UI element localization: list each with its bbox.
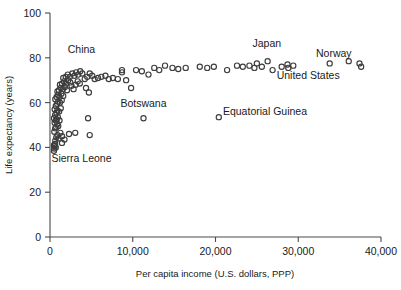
y-tick-label: 40 <box>29 141 41 153</box>
y-tick-label: 80 <box>29 52 41 64</box>
annotation-label: China <box>68 43 96 55</box>
y-axis-ticks: 020406080100 <box>23 7 50 243</box>
data-point <box>146 72 151 77</box>
data-point <box>73 130 78 135</box>
data-point <box>346 59 351 64</box>
data-point <box>157 68 162 73</box>
data-point <box>211 64 216 69</box>
x-tick-label: 40,000 <box>365 245 397 257</box>
y-tick-label: 0 <box>35 231 41 243</box>
y-tick-label: 100 <box>23 7 41 19</box>
data-point <box>259 64 264 69</box>
annotation-label: Japan <box>253 37 282 49</box>
annotation-label: United States <box>277 69 340 81</box>
data-point <box>216 115 221 120</box>
data-point <box>327 61 332 66</box>
x-tick-label: 30,000 <box>282 245 314 257</box>
y-axis-title: Life expectancy (years) <box>3 76 14 174</box>
data-point <box>115 76 120 81</box>
annotation-label: Botswana <box>120 97 166 109</box>
data-point <box>170 65 175 70</box>
data-point <box>66 131 71 136</box>
annotation-label: Equatorial Guinea <box>223 105 307 117</box>
data-point <box>128 85 133 90</box>
data-point <box>162 63 167 68</box>
y-tick-label: 60 <box>29 97 41 109</box>
data-point <box>254 61 259 66</box>
data-point <box>265 59 270 64</box>
chart-canvas: 010,00020,00030,00040,000 020406080100 P… <box>0 0 401 290</box>
x-tick-label: 10,000 <box>117 245 149 257</box>
x-tick-label: 20,000 <box>199 245 231 257</box>
data-point <box>234 63 239 68</box>
x-tick-label: 0 <box>47 245 53 257</box>
data-point <box>270 68 275 73</box>
data-point <box>152 65 157 70</box>
x-axis-title: Per capita income (U.S. dollars, PPP) <box>136 268 294 279</box>
data-point <box>183 65 188 70</box>
x-axis-ticks: 010,00020,00030,00040,000 <box>47 237 397 257</box>
data-point <box>124 78 129 83</box>
data-point <box>86 90 91 95</box>
scatter-plot-figure: 010,00020,00030,00040,000 020406080100 P… <box>0 0 401 290</box>
data-point <box>291 63 296 68</box>
data-point <box>87 132 92 137</box>
data-point <box>176 66 181 71</box>
annotation-label: Sierra Leone <box>51 152 111 164</box>
data-point <box>240 64 245 69</box>
annotation-label: Norway <box>316 47 352 59</box>
point-annotations: ChinaBotswanaEquatorial GuineaSierra Leo… <box>51 37 352 164</box>
data-point <box>205 65 210 70</box>
data-point <box>133 68 138 73</box>
data-point <box>224 68 229 73</box>
data-point <box>141 116 146 121</box>
data-point <box>197 64 202 69</box>
data-point <box>139 69 144 74</box>
data-point <box>95 75 100 80</box>
data-point <box>85 116 90 121</box>
y-tick-label: 20 <box>29 186 41 198</box>
